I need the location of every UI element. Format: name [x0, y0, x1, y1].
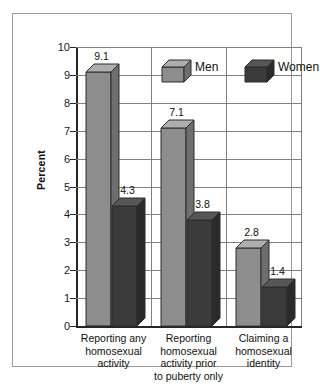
- bar-men: [160, 128, 185, 326]
- bar-women: [111, 206, 136, 326]
- category-label: Reporting anyhomosexualactivity: [73, 332, 154, 370]
- category-label-line: Claiming a: [223, 332, 304, 345]
- legend-label-men: Men: [195, 61, 218, 73]
- category-label-line: activity prior: [148, 357, 229, 370]
- bar-value-label: 2.8: [229, 227, 274, 238]
- vertical-gridline: [301, 47, 302, 326]
- category-label-line: homosexual: [223, 345, 304, 358]
- y-tick-label: 6: [46, 154, 70, 165]
- bar-3d-shape: [186, 211, 221, 327]
- category-label: Reportinghomosexualactivity priorto pube…: [148, 332, 229, 382]
- x-axis-category-labels: Reporting anyhomosexualactivityReporting…: [76, 332, 302, 388]
- y-tick-label: 3: [46, 237, 70, 248]
- category-label-line: Reporting any: [73, 332, 154, 345]
- chart-legend: MenWomen: [76, 47, 301, 107]
- y-tick-label: 10: [46, 42, 70, 53]
- category-label: Claiming ahomosexualidentity: [223, 332, 304, 370]
- bar-women: [186, 220, 211, 326]
- legend-swatch-women: [244, 59, 276, 89]
- legend-swatch-men: [161, 59, 193, 89]
- category-label-line: identity: [223, 357, 304, 370]
- chart-figure: Percent 109876543210 9.14.37.13.82.81.4 …: [0, 0, 306, 392]
- category-label-line: homosexual: [73, 345, 154, 358]
- category-label-line: to puberty only: [148, 370, 229, 383]
- bar-value-label: 3.8: [180, 199, 225, 210]
- y-tick-label: 1: [46, 293, 70, 304]
- bar-3d-shape: [261, 278, 296, 327]
- category-label-line: homosexual: [148, 345, 229, 358]
- y-tick-label: 0: [46, 321, 70, 332]
- bar-men: [235, 248, 260, 326]
- y-tick-label: 7: [46, 126, 70, 137]
- category-label-line: activity: [73, 357, 154, 370]
- bar-value-label: 1.4: [255, 266, 300, 277]
- bar-men: [85, 72, 110, 326]
- y-tick-label: 5: [46, 182, 70, 193]
- bar-value-label: 7.1: [154, 107, 199, 118]
- chart-frame: Percent 109876543210 9.14.37.13.82.81.4 …: [12, 13, 292, 367]
- legend-label-women: Women: [278, 61, 306, 73]
- category-label-line: Reporting: [148, 332, 229, 345]
- bar-value-label: 4.3: [105, 185, 150, 196]
- y-tick-label: 4: [46, 209, 70, 220]
- y-axis-tick-labels: 109876543210: [46, 47, 70, 326]
- bar-women: [261, 287, 286, 326]
- y-tick-label: 8: [46, 98, 70, 109]
- plot-area: 9.14.37.13.82.81.4 MenWomen: [76, 47, 301, 326]
- y-tick-label: 9: [46, 70, 70, 81]
- y-tick-label: 2: [46, 265, 70, 276]
- bar-3d-shape: [111, 197, 146, 327]
